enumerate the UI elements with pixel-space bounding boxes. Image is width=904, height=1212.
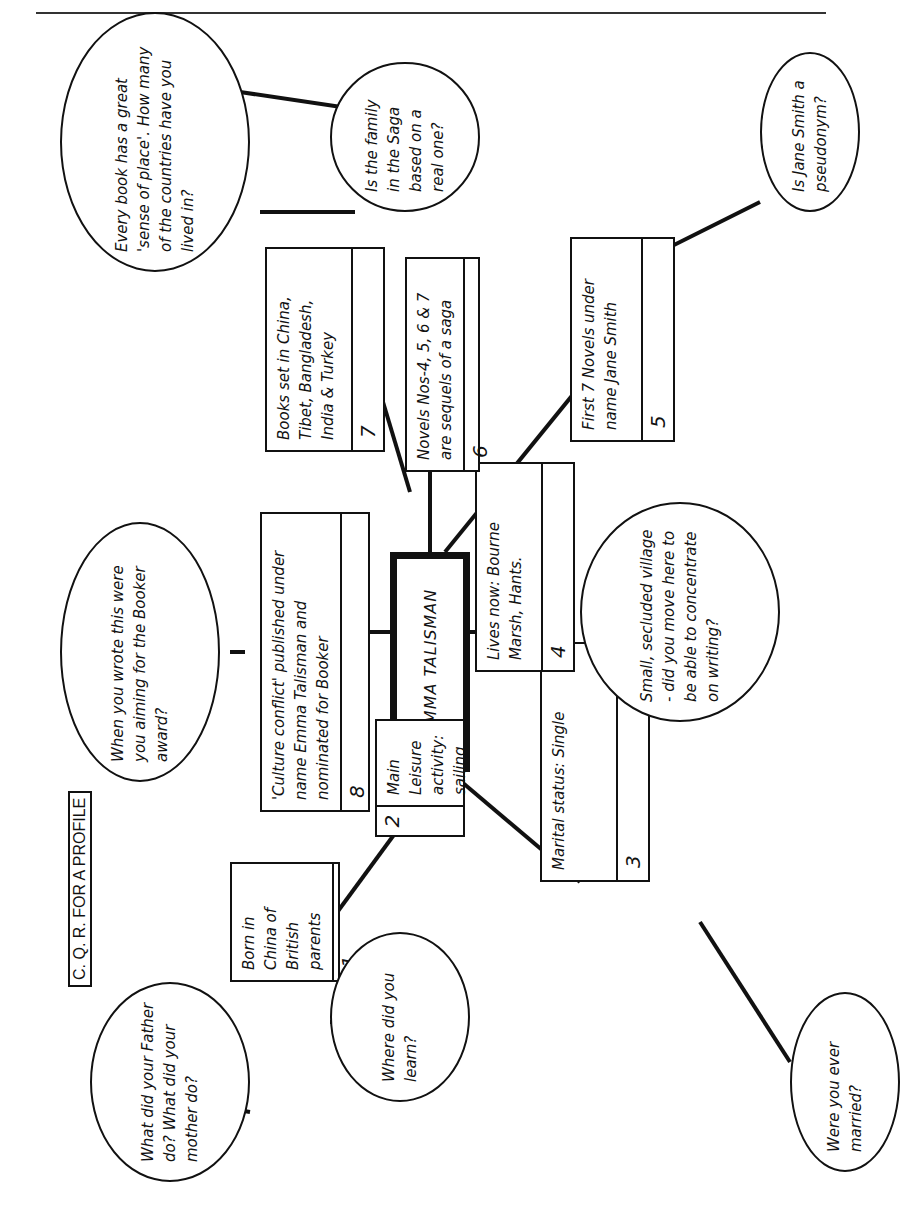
question-bubble-2: Where did you learn?: [330, 932, 470, 1102]
fact-number: 7: [351, 249, 383, 450]
question-bubble-1: What did your Father do? What did your m…: [90, 982, 250, 1182]
fact-text: First 7 Novels under name Jane Smith: [572, 239, 641, 440]
question-bubble-6: Is the family in the Saga based on a rea…: [330, 62, 480, 212]
fact-text: Novels Nos-4, 5, 6 & 7 are sequels of a …: [407, 259, 463, 470]
fact-box-5: First 7 Novels under name Jane Smith 5: [570, 237, 675, 442]
fact-number: 6: [463, 259, 495, 470]
fact-number: 5: [641, 239, 673, 440]
fact-number: 8: [340, 514, 372, 810]
fact-text: 'Culture conflict' published under name …: [262, 514, 340, 810]
page-title: C. Q. R. FOR A PROFILE: [68, 791, 92, 987]
question-bubble-4: Small, secluded village - did you move h…: [580, 502, 780, 722]
question-bubble-5: Is Jane Smith a pseudonym?: [760, 52, 860, 212]
fact-text: Born in China of British parents: [232, 864, 332, 980]
fact-box-8: 'Culture conflict' published under name …: [260, 512, 370, 812]
fact-box-7: Books set in China, Tibet, Bangladesh, I…: [265, 247, 385, 452]
profile-diagram: C. Q. R. FOR A PROFILE EMMA TALISMAN Bor…: [0, 0, 904, 1212]
question-bubble-7: Every book has a great 'sense of place'.…: [60, 12, 250, 272]
fact-text: Main Leisure activity: sailing: [377, 721, 463, 805]
fact-box-1: Born in China of British parents 1: [230, 862, 340, 982]
fact-box-6: Novels Nos-4, 5, 6 & 7 are sequels of a …: [405, 257, 480, 472]
fact-box-2: 2 Main Leisure activity: sailing: [375, 719, 465, 837]
fact-text: Lives now: Bourne Marsh, Hants.: [477, 464, 541, 670]
fact-text: Books set in China, Tibet, Bangladesh, I…: [267, 249, 351, 450]
fact-number: 2: [377, 805, 463, 835]
question-bubble-8: When you wrote this were you aiming for …: [60, 522, 220, 782]
fact-box-4: Lives now: Bourne Marsh, Hants. 4: [475, 462, 575, 672]
fact-number: 4: [541, 464, 573, 670]
question-bubble-3: Were you ever married?: [790, 992, 900, 1172]
